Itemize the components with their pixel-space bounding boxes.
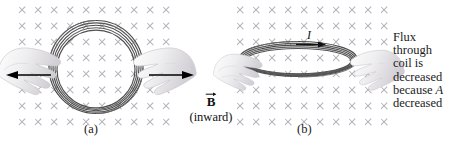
panel-b-field-mark <box>248 114 264 130</box>
panel-b-field-mark <box>296 82 312 98</box>
panel-b-field-mark <box>328 18 344 34</box>
panel-b-field-mark <box>280 2 296 18</box>
panel-b-field-mark <box>280 98 296 114</box>
panel-b-field-mark <box>264 98 280 114</box>
panel-b-field-mark <box>360 114 376 130</box>
caption-area-symbol: A <box>436 83 444 97</box>
panel-b-field-mark <box>376 18 392 34</box>
panel-b-field-mark <box>264 114 280 130</box>
panel-b-field-mark <box>328 82 344 98</box>
panel-b-field-mark <box>360 18 376 34</box>
panel-a-field-mark <box>158 98 174 114</box>
b-field-direction-note: (inward) <box>182 110 240 124</box>
panel-b-field-mark <box>296 98 312 114</box>
panel-b-field-mark <box>344 98 360 114</box>
panel-b-current-arrow <box>296 40 326 49</box>
panel-b-field-mark <box>360 2 376 18</box>
panel-b-field-mark <box>232 2 248 18</box>
panel-b-field-mark <box>232 18 248 34</box>
panel-b-field-mark <box>328 114 344 130</box>
panel-b-field-mark <box>344 18 360 34</box>
panel-a-field-mark <box>158 2 174 18</box>
panel-b-field-mark <box>296 2 312 18</box>
panel-b-field-mark <box>280 82 296 98</box>
flux-explanation-text: Flux through coil is decreased becauseA … <box>393 31 443 110</box>
panel-a-field-mark <box>14 114 30 130</box>
panel-b-field-mark <box>312 98 328 114</box>
induction-figure: (a) B (inward) <box>0 0 452 143</box>
panel-a-field-mark <box>158 18 174 34</box>
panel-b-field-mark <box>264 18 280 34</box>
panel-b-label: (b) <box>297 122 312 137</box>
panel-a-label: (a) <box>84 122 98 137</box>
panel-b-field-mark <box>344 114 360 130</box>
caption-line-5-text: because <box>393 83 433 97</box>
panel-b-field-mark <box>328 98 344 114</box>
panel-b-field-mark <box>312 114 328 130</box>
panel-b-field-mark <box>248 18 264 34</box>
panel-b-field-mark <box>248 98 264 114</box>
panel-a-field-mark <box>14 98 30 114</box>
panel-b-field-mark <box>280 18 296 34</box>
panel-a-right-pull-arrow <box>148 68 194 82</box>
panel-b-field-mark <box>328 2 344 18</box>
panel-b-field-mark <box>312 82 328 98</box>
caption-line-3: coil is <box>393 57 443 70</box>
panel-a-left-pull-arrow <box>6 68 52 82</box>
panel-b-field-mark <box>360 98 376 114</box>
panel-a-field-mark <box>14 2 30 18</box>
panel-b-field-mark <box>312 18 328 34</box>
panel-b-field-mark <box>248 2 264 18</box>
panel-b-field-mark <box>264 2 280 18</box>
panel-b-left-hand <box>212 44 268 100</box>
panel-a-field-mark <box>14 18 30 34</box>
panel-b-field-mark <box>376 98 392 114</box>
panel-b-field-mark <box>376 114 392 130</box>
panel-b-field-mark <box>312 2 328 18</box>
panel-b-field-mark <box>376 2 392 18</box>
caption-line-6: decreased <box>393 97 443 110</box>
panel-b-field-mark <box>344 2 360 18</box>
panel-a-field-mark <box>158 114 174 130</box>
panel-b-field-mark <box>280 114 296 130</box>
